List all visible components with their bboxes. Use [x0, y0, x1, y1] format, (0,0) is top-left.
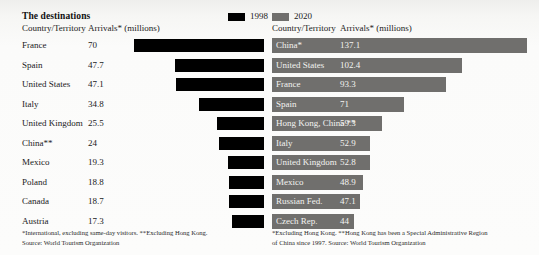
value-label: 48.9: [340, 177, 356, 187]
value-label: 47.1: [88, 79, 104, 89]
value-label: 137.1: [340, 40, 360, 50]
footnote-left: *International, excluding same-day visit…: [22, 228, 260, 247]
bar-2020: [272, 38, 527, 53]
bar-row: Hong Kong, China **59.3: [266, 116, 539, 136]
page-title: The destinations: [22, 11, 90, 21]
footnote-right-line2: of China since 1997. Source: World Touri…: [272, 238, 530, 247]
footnote-left-line1: *International, excluding same-day visit…: [22, 228, 260, 237]
country-label: France: [276, 79, 301, 89]
bar-row: France70: [0, 38, 266, 58]
column-header-arrivals: Arrivals* (millions): [88, 23, 160, 33]
value-label: 44: [340, 216, 349, 226]
country-label: China*: [276, 40, 302, 50]
bar-1998: [134, 39, 264, 52]
bar-row: United States102.4: [266, 58, 539, 78]
bar-1998: [219, 137, 264, 150]
country-label: United Kingdom: [276, 157, 337, 167]
value-label: 47.1: [340, 196, 356, 206]
value-label: 102.4: [340, 60, 360, 70]
value-label: 25.5: [88, 118, 104, 128]
column-header-country: Country/Territory: [22, 23, 86, 33]
value-label: 17.3: [88, 216, 104, 226]
bar-row: Mexico19.3: [0, 155, 266, 175]
column-header-country-2020: Country/Territory: [272, 23, 336, 33]
country-label: Mexico: [22, 157, 50, 167]
country-label: Austria: [22, 216, 49, 226]
column-header-arrivals-2020: Arrivals* (millions): [340, 23, 412, 33]
country-label: Mexico: [276, 177, 304, 187]
legend-swatch-icon: [228, 13, 245, 21]
bar-row: United Kingdom52.8: [266, 155, 539, 175]
bar-1998: [229, 195, 264, 208]
country-label: Czech Rep.: [276, 216, 317, 226]
country-label: United States: [276, 60, 324, 70]
bar-rows-2020: China*137.1United States102.4France93.3S…: [266, 38, 539, 233]
bar-1998: [199, 98, 264, 111]
value-label: 59.3: [340, 118, 356, 128]
bar-row: Italy34.8: [0, 97, 266, 117]
value-label: 18.8: [88, 177, 104, 187]
bar-row: Spain47.7: [0, 58, 266, 78]
bar-row: China*137.1: [266, 38, 539, 58]
country-label: Poland: [22, 177, 47, 187]
value-label: 47.7: [88, 60, 104, 70]
footnote-right-line1: *Excluding Hong Kong. **Hong Kong has be…: [272, 228, 530, 237]
bar-1998: [232, 215, 264, 228]
country-label: United States: [22, 79, 70, 89]
bar-row: Poland18.8: [0, 175, 266, 195]
footnote-left-line2: Source: World Tourism Organization: [22, 238, 260, 247]
bar-row: Canada18.7: [0, 194, 266, 214]
value-label: 93.3: [340, 79, 356, 89]
bar-row: United Kingdom25.5: [0, 116, 266, 136]
country-label: Spain: [22, 60, 43, 70]
value-label: 52.8: [340, 157, 356, 167]
bar-row: China**24: [0, 136, 266, 156]
country-label: Italy: [276, 138, 293, 148]
country-label: Italy: [22, 99, 39, 109]
bar-1998: [176, 78, 264, 91]
bar-rows-1998: France70Spain47.7United States47.1Italy3…: [0, 38, 266, 233]
bar-1998: [175, 59, 264, 72]
country-label: Spain: [276, 99, 297, 109]
panel-2020: Country/Territory Arrivals* (millions) C…: [266, 0, 539, 255]
bar-row: Mexico48.9: [266, 175, 539, 195]
country-label: China**: [22, 138, 53, 148]
value-label: 18.7: [88, 196, 104, 206]
bar-row: Spain71: [266, 97, 539, 117]
value-label: 34.8: [88, 99, 104, 109]
bar-row: Italy52.9: [266, 136, 539, 156]
bar-row: Russian Fed.47.1: [266, 194, 539, 214]
country-label: Russian Fed.: [276, 196, 323, 206]
chart-page: The destinations Country/Territory Arriv…: [0, 0, 539, 255]
bar-row: France93.3: [266, 77, 539, 97]
value-label: 52.9: [340, 138, 356, 148]
panel-1998: The destinations Country/Territory Arriv…: [0, 0, 266, 255]
country-label: United Kingdom: [22, 118, 83, 128]
value-label: 71: [340, 99, 349, 109]
value-label: 70: [88, 40, 97, 50]
footnote-right: *Excluding Hong Kong. **Hong Kong has be…: [272, 228, 530, 247]
country-label: France: [22, 40, 47, 50]
value-label: 24: [88, 138, 97, 148]
legend-item-1998: 1998: [228, 12, 268, 21]
bar-1998: [217, 117, 264, 130]
bar-row: United States47.1: [0, 77, 266, 97]
bar-1998: [229, 176, 264, 189]
value-label: 19.3: [88, 157, 104, 167]
country-label: Canada: [22, 196, 49, 206]
bar-1998: [228, 156, 264, 169]
